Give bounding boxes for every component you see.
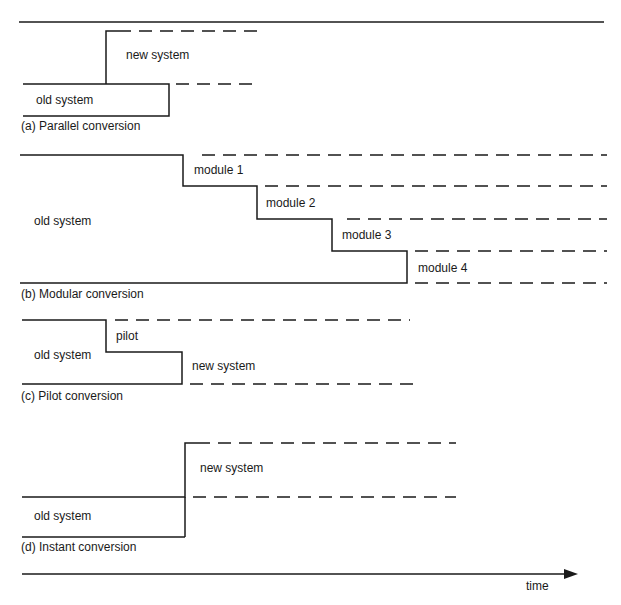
panel-c-new-label: new system (192, 359, 255, 373)
panel-b-caption: (b) Modular conversion (21, 287, 144, 301)
panel-a-old-label: old system (36, 93, 93, 107)
panel-c-caption: (c) Pilot conversion (21, 389, 123, 403)
panel-d-caption: (d) Instant conversion (21, 540, 136, 554)
panel-c-old-label: old system (34, 348, 91, 362)
panel-b-module-1-label: module 1 (194, 163, 243, 177)
panel-a-new-label: new system (126, 48, 189, 62)
panel-d-new-label: new system (200, 461, 263, 475)
panel-b-old-label: old system (34, 214, 91, 228)
panel-d-old-label: old system (34, 509, 91, 523)
conversion-diagram (0, 0, 621, 605)
time-axis-label: time (526, 579, 549, 593)
panel-c-pilot-label: pilot (116, 329, 138, 343)
panel-a-caption: (a) Parallel conversion (21, 119, 140, 133)
panel-b-lines (20, 155, 607, 283)
panel-b-module-3-label: module 3 (342, 228, 391, 242)
time-arrowhead-icon (564, 569, 578, 579)
panel-b-module-4-label: module 4 (418, 261, 467, 275)
panel-b-module-2-label: module 2 (266, 196, 315, 210)
